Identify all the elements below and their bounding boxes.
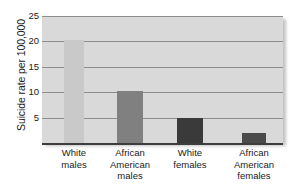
plot-area — [42, 16, 283, 143]
y-tick-label: 25 — [23, 11, 39, 21]
bar — [117, 91, 143, 143]
x-tick-label-line: males — [95, 170, 165, 182]
y-axis-tick-labels: 510152025 — [22, 0, 39, 187]
x-tick-label-line: African — [219, 147, 289, 159]
x-tick-label-line: females — [155, 159, 225, 171]
y-tick-label: 20 — [23, 36, 39, 46]
y-tick-label: 5 — [23, 113, 39, 123]
x-tick-label-line: White — [155, 147, 225, 159]
x-axis-tick-labels: WhitemalesAfricanAmericanmalesWhitefemal… — [42, 147, 283, 187]
bar — [64, 40, 84, 143]
bar — [242, 133, 266, 143]
y-tick-label: 10 — [23, 87, 39, 97]
bars-group — [42, 16, 283, 143]
bar — [177, 118, 203, 143]
x-tick-label-line: females — [219, 170, 289, 182]
x-tick-label: AfricanAmericanfemales — [219, 147, 289, 182]
x-tick-label-line: American — [219, 159, 289, 171]
y-tick-label: 15 — [23, 62, 39, 72]
x-tick-label: Whitefemales — [155, 147, 225, 170]
bar-chart-figure: Suicide rate per 100,000 510152025 White… — [0, 0, 291, 187]
x-axis-line — [42, 143, 283, 145]
